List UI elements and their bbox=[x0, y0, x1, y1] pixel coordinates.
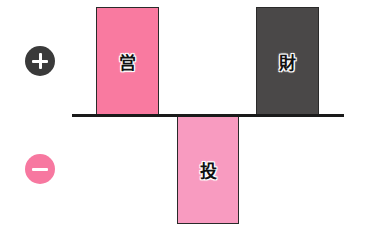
minus-stroke bbox=[32, 168, 48, 171]
bar-financing: 財 bbox=[256, 7, 319, 116]
zero-baseline bbox=[72, 114, 344, 117]
bar-investing: 投 bbox=[177, 115, 239, 224]
plus-sign-icon bbox=[25, 46, 55, 76]
plus-vertical-stroke bbox=[39, 53, 42, 69]
bar-operating: 営 bbox=[96, 7, 159, 116]
minus-sign-icon bbox=[25, 154, 55, 184]
bar-label: 営 bbox=[119, 49, 136, 74]
bar-label: 財 bbox=[279, 49, 296, 74]
bar-label: 投 bbox=[200, 157, 217, 182]
